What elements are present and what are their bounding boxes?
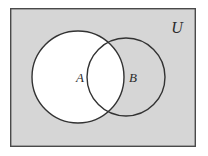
set-b-label: B <box>129 70 137 85</box>
venn-diagram-figure: A B U <box>0 0 208 156</box>
venn-diagram-canvas: A B U <box>0 0 208 156</box>
set-a-label: A <box>75 70 84 85</box>
universe-label: U <box>171 19 184 36</box>
